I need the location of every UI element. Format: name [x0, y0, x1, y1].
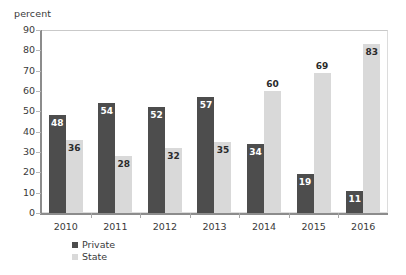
bar-private-2011[interactable]: 54 [98, 103, 115, 213]
x-tick-label: 2012 [153, 221, 177, 232]
bar-value-label: 11 [348, 195, 361, 204]
bar-state-2010[interactable]: 36 [66, 140, 83, 213]
x-axis-line [40, 213, 388, 215]
bar-group: 4836 [41, 30, 91, 213]
bar-private-2013[interactable]: 57 [197, 97, 214, 213]
legend-item-state[interactable]: State [72, 251, 115, 263]
bar-private-2015[interactable]: 19 [297, 174, 314, 213]
bar-group: 5428 [91, 30, 141, 213]
bar-state-2011[interactable]: 28 [115, 156, 132, 213]
x-tick-label: 2011 [103, 221, 127, 232]
bar-group: 3460 [239, 30, 289, 213]
bar-value-label: 36 [68, 144, 81, 153]
bar-state-2014[interactable]: 60 [264, 91, 281, 213]
x-tick-mark [289, 213, 290, 218]
bar-chart: percent 9080706050403020100 483654285232… [0, 0, 406, 275]
x-tick-mark [239, 213, 240, 218]
bar-group: 1969 [289, 30, 339, 213]
bar-value-label: 28 [118, 160, 131, 169]
x-tick-mark [91, 213, 92, 218]
bar-private-2012[interactable]: 52 [148, 107, 165, 213]
x-tick-label: 2016 [351, 221, 375, 232]
y-tick-mark [36, 213, 41, 214]
legend-label: Private [82, 240, 115, 250]
bars-container: 4836542852325735346019691183 [41, 30, 388, 213]
bar-value-label: 57 [200, 101, 213, 110]
bar-group: 5735 [190, 30, 240, 213]
bar-value-label: 35 [217, 146, 230, 155]
x-tick-label: 2010 [54, 221, 78, 232]
bar-value-label: 48 [51, 119, 64, 128]
y-tick-label: 30 [15, 147, 35, 157]
y-tick-label: 70 [15, 66, 35, 76]
x-tick-mark [140, 213, 141, 218]
x-tick-mark [190, 213, 191, 218]
bar-group: 5232 [140, 30, 190, 213]
y-axis-title: percent [14, 8, 51, 19]
bar-value-label: 34 [249, 148, 262, 157]
legend-swatch-icon [72, 242, 78, 248]
bar-value-label: 32 [167, 152, 180, 161]
bar-state-2012[interactable]: 32 [165, 148, 182, 213]
bar-private-2014[interactable]: 34 [247, 144, 264, 213]
x-tick-label: 2015 [302, 221, 326, 232]
legend-swatch-icon [72, 254, 78, 260]
bar-value-label: 54 [101, 107, 114, 116]
y-tick-label: 0 [15, 208, 35, 218]
legend-label: State [82, 252, 107, 262]
legend: PrivateState [72, 239, 115, 263]
y-tick-label: 60 [15, 86, 35, 96]
y-tick-label: 10 [15, 188, 35, 198]
bar-state-2016[interactable]: 83 [363, 44, 380, 213]
bar-value-label: 52 [150, 111, 163, 120]
legend-item-private[interactable]: Private [72, 239, 115, 251]
y-tick-label: 40 [15, 127, 35, 137]
bar-value-label: 69 [316, 62, 329, 71]
x-tick-mark [338, 213, 339, 218]
y-tick-label: 20 [15, 168, 35, 178]
y-tick-label: 90 [15, 25, 35, 35]
bar-private-2010[interactable]: 48 [49, 115, 66, 213]
bar-value-label: 60 [266, 80, 279, 89]
x-tick-label: 2013 [202, 221, 226, 232]
bar-state-2015[interactable]: 69 [314, 73, 331, 213]
y-tick-label: 80 [15, 46, 35, 56]
y-tick-label: 50 [15, 107, 35, 117]
bar-group: 1183 [338, 30, 388, 213]
bar-value-label: 19 [299, 178, 312, 187]
bar-value-label: 83 [365, 48, 378, 57]
bar-state-2013[interactable]: 35 [214, 142, 231, 213]
bar-private-2016[interactable]: 11 [346, 191, 363, 213]
x-tick-label: 2014 [252, 221, 276, 232]
